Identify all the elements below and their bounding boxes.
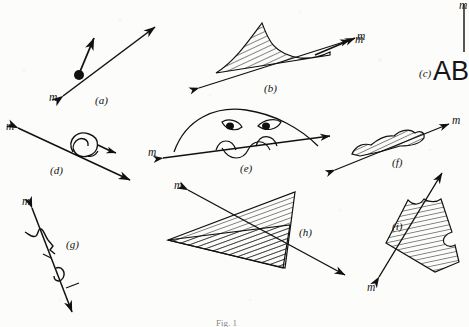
panel-e-right-pupil [262,122,270,129]
figure-svg: m (a) m (b) m (c) AB m m (d) m [0,0,469,327]
panel-e-left-pupil [226,122,234,129]
panel-b-label: (b) [264,82,277,95]
panel-d-m-label: m [6,120,14,132]
panel-h-label: (h) [299,226,312,239]
panel-e-label: (e) [240,162,253,175]
panel-g-m-label: m [22,195,30,207]
panel-c-edge-m-label: m [459,0,467,11]
panel-i-label: (i) [392,220,403,233]
figure-caption: Fig. 1 [216,318,237,327]
panel-g-label: (g) [66,238,79,251]
panel-e-m-label: m [148,146,156,158]
panel-f-m-label: m [452,114,460,126]
panel-a-point-mass [74,70,84,80]
panel-a-m-label: m [49,91,57,103]
panel-f-label: (f) [392,156,403,169]
panel-h-m-label: m [174,179,182,191]
panel-a-label: (a) [95,94,108,107]
text-block-ab: AB [433,56,469,86]
panel-c-label: (c) [419,67,432,80]
panel-i-m-label: m [367,281,375,293]
panel-c-m-label: m [357,30,365,42]
figure-canvas: m (a) m (b) m (c) AB m m (d) m [0,0,469,327]
panel-d-label: (d) [50,164,63,177]
